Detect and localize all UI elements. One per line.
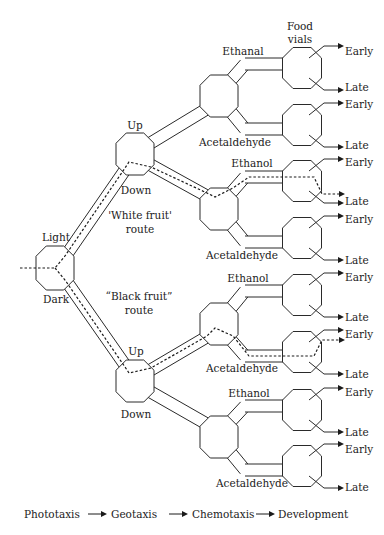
tube-body bbox=[245, 464, 284, 476]
tube-body bbox=[245, 400, 284, 412]
legend-phototaxis: Phototaxis bbox=[24, 508, 80, 520]
label-food: Food bbox=[287, 20, 313, 32]
tube-body bbox=[245, 123, 284, 135]
label-up-upper: Up bbox=[127, 119, 143, 131]
food-vial bbox=[283, 390, 322, 431]
arrowhead-icon bbox=[338, 100, 344, 106]
label-black-fruit: “Black fruit” bbox=[106, 290, 173, 302]
label-light: Light bbox=[42, 231, 71, 243]
chemotaxis-chamber bbox=[200, 75, 238, 117]
legend-geotaxis: Geotaxis bbox=[111, 508, 157, 520]
label-early: Early bbox=[345, 213, 373, 225]
geotaxis-chamber bbox=[116, 360, 154, 402]
arrowhead-icon bbox=[338, 156, 344, 162]
tube-body bbox=[245, 236, 284, 248]
legend-development: Development bbox=[278, 508, 349, 520]
label-early: Early bbox=[345, 386, 373, 398]
arrowhead-icon bbox=[338, 314, 344, 320]
label-late: Late bbox=[345, 139, 369, 151]
label-early: Early bbox=[345, 45, 373, 57]
label-acetaldehyde-1: Acetaldehyde bbox=[198, 136, 271, 148]
geotaxis-chamber bbox=[116, 133, 154, 175]
tube-body bbox=[245, 350, 284, 362]
tube-body bbox=[245, 58, 284, 70]
label-acetaldehyde-4: Acetaldehyde bbox=[215, 477, 288, 489]
arrowhead-icon bbox=[338, 213, 344, 219]
food-vial bbox=[283, 332, 322, 373]
label-early: Early bbox=[345, 443, 373, 455]
label-white-fruit: 'White fruit' bbox=[108, 209, 172, 221]
label-late: Late bbox=[345, 481, 369, 493]
tube-body bbox=[245, 285, 284, 297]
arrowhead-icon bbox=[338, 371, 344, 377]
label-down-lower: Down bbox=[121, 408, 152, 420]
food-vial bbox=[283, 275, 322, 316]
label-down-upper: Down bbox=[121, 184, 152, 196]
food-vial bbox=[283, 218, 322, 259]
behavioral-choice-maze: Light Dark 'White fruit' route “Black fr… bbox=[0, 0, 384, 535]
label-ethanol-2: Ethanol bbox=[231, 157, 273, 169]
arrowhead-icon bbox=[338, 385, 344, 391]
label-late: Late bbox=[345, 254, 369, 266]
tube-body bbox=[146, 159, 208, 200]
label-up-lower: Up bbox=[128, 345, 144, 357]
arrowhead-icon bbox=[338, 87, 344, 93]
label-late: Late bbox=[345, 426, 369, 438]
label-early: Early bbox=[345, 98, 373, 110]
label-acetaldehyde-2: Acetaldehyde bbox=[205, 249, 278, 261]
choice-chambers bbox=[36, 48, 322, 487]
label-late: Late bbox=[345, 311, 369, 323]
label-late: Late bbox=[345, 81, 369, 93]
arrowhead-icon bbox=[338, 485, 344, 491]
label-vials: vials bbox=[287, 33, 312, 45]
label-late: Late bbox=[345, 195, 369, 207]
exit-arrows bbox=[309, 43, 344, 491]
maze-diagram: Light Dark 'White fruit' route “Black fr… bbox=[0, 0, 384, 535]
chemotaxis-chamber bbox=[200, 416, 238, 458]
tube-body bbox=[146, 333, 208, 376]
connecting-tubes bbox=[62, 58, 284, 476]
label-early: Early bbox=[345, 156, 373, 168]
arrowhead-icon bbox=[338, 43, 344, 49]
chemotaxis-chamber bbox=[200, 303, 238, 345]
legend-chemotaxis: Chemotaxis bbox=[192, 508, 254, 520]
vial-exit-labels: Early Late Early Late Early Late Early L… bbox=[345, 45, 373, 493]
arrowhead-icon bbox=[338, 144, 344, 150]
label-white-route: route bbox=[126, 223, 155, 235]
stage-legend: Phototaxis Geotaxis Chemotaxis Developme… bbox=[24, 508, 349, 520]
label-black-route: route bbox=[125, 304, 154, 316]
label-ethanol-3: Ethanol bbox=[227, 272, 269, 284]
label-dark: Dark bbox=[43, 293, 70, 305]
food-vial bbox=[283, 446, 322, 487]
arrowhead-icon bbox=[269, 511, 275, 517]
label-late: Late bbox=[345, 368, 369, 380]
chemotaxis-chamber bbox=[200, 188, 238, 230]
arrowhead-icon bbox=[338, 270, 344, 276]
food-vial bbox=[283, 48, 322, 89]
arrowhead-icon bbox=[182, 511, 188, 517]
food-vial bbox=[283, 105, 322, 146]
label-early: Early bbox=[345, 328, 373, 340]
arrowhead-icon bbox=[338, 200, 344, 206]
label-early: Early bbox=[345, 271, 373, 283]
arrowhead-icon bbox=[338, 441, 344, 447]
arrowhead-icon bbox=[101, 511, 107, 517]
label-acetaldehyde-3: Acetaldehyde bbox=[205, 362, 278, 374]
label-ethanol-4: Ethanol bbox=[228, 387, 270, 399]
tube-body bbox=[146, 386, 208, 428]
label-ethanal: Ethanal bbox=[222, 45, 264, 57]
arrowhead-icon bbox=[338, 257, 344, 263]
arrowhead-icon bbox=[338, 327, 344, 333]
arrowhead-icon bbox=[338, 429, 344, 435]
